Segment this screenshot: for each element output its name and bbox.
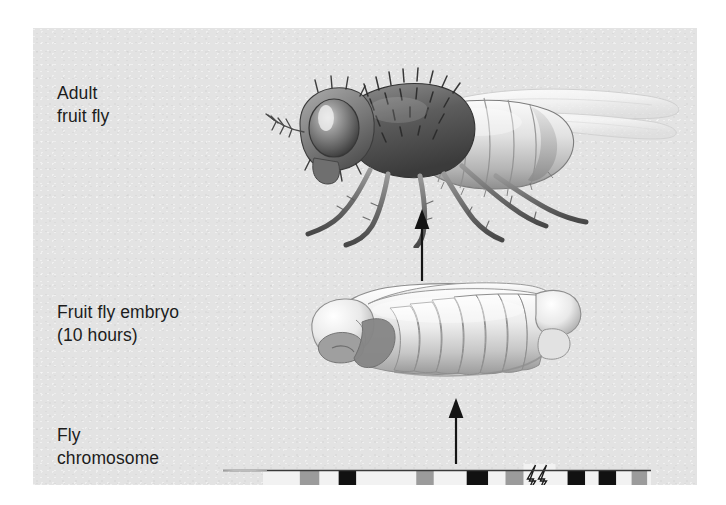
- chromosome-band-light-3: [416, 471, 433, 485]
- chromosome-band-dark-2: [339, 471, 356, 485]
- chromosome-band-dark-4: [467, 471, 488, 485]
- fruit-fly-embryo-illustration: [298, 268, 658, 383]
- chromosome-band-light-5: [506, 471, 525, 485]
- fly-antenna: [266, 114, 304, 137]
- fly-chromosome-diagram: [223, 464, 651, 485]
- arrow-chromosome-to-embryo: [445, 398, 467, 464]
- figure-panel: Adult fruit fly Fruit fly embryo (10 hou…: [33, 28, 697, 485]
- adult-fruit-fly-illustration: [248, 48, 688, 248]
- chromosome-band-light-8: [632, 471, 648, 485]
- chromosome-break-symbol: [523, 464, 555, 485]
- fly-proboscis: [313, 158, 340, 184]
- chromosome-band-dark-7: [599, 471, 616, 485]
- chromosome-band-dark-6: [568, 471, 585, 485]
- fly-head: [266, 76, 374, 184]
- chromosome-band-light-1: [300, 471, 319, 485]
- embryo-posterior: [536, 290, 581, 359]
- label-adult-fruit-fly: Adult fruit fly: [57, 82, 109, 128]
- label-fly-chromosome: Fly chromosome: [57, 424, 159, 470]
- fly-compound-eye: [309, 99, 359, 157]
- label-fruit-fly-embryo: Fruit fly embryo (10 hours): [57, 301, 179, 347]
